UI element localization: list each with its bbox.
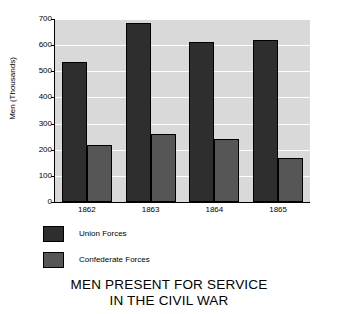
legend-label: Confederate Forces <box>79 255 150 265</box>
bar-union-forces-1862 <box>62 62 87 202</box>
x-axis-tick-label-1865: 1865 <box>248 205 308 215</box>
chart-title: MEN PRESENT FOR SERVICE IN THE CIVIL WAR <box>0 277 338 309</box>
legend-label: Union Forces <box>79 229 127 239</box>
bar-group <box>126 19 176 202</box>
bar-confederate-forces-1865 <box>278 158 303 202</box>
y-axis-tick-label: 100 <box>4 172 52 180</box>
x-axis-ticks: 1862186318641865 <box>55 205 310 219</box>
bar-group <box>189 19 239 202</box>
chart-figure: 7006005004003002001000 Men (Thousands) 1… <box>0 0 338 314</box>
plot-area <box>55 19 310 202</box>
chart-legend: Union ForcesConfederate Forces <box>43 221 283 273</box>
x-axis-tick-label-1863: 1863 <box>121 205 181 215</box>
chart-title-line-2: IN THE CIVIL WAR <box>0 293 338 309</box>
bar-confederate-forces-1862 <box>87 145 112 202</box>
bar-union-forces-1864 <box>189 42 214 202</box>
y-axis-tick-label: 0 <box>4 198 52 206</box>
bar-union-forces-1865 <box>253 40 278 202</box>
bar-union-forces-1863 <box>126 23 151 202</box>
legend-item-confederate-forces: Confederate Forces <box>43 247 283 273</box>
x-axis-tick-label-1862: 1862 <box>57 205 117 215</box>
y-axis-tick-label: 700 <box>4 15 52 23</box>
legend-swatch-confederate <box>43 252 64 268</box>
legend-item-union-forces: Union Forces <box>43 221 283 247</box>
bar-group <box>62 19 112 202</box>
y-axis-line <box>54 19 55 203</box>
bars-layer <box>55 19 310 202</box>
bar-group <box>253 19 303 202</box>
chart-title-line-1: MEN PRESENT FOR SERVICE <box>71 277 268 292</box>
x-axis-tick-label-1864: 1864 <box>184 205 244 215</box>
bar-confederate-forces-1864 <box>214 139 239 202</box>
y-axis-title: Men (Thousands) <box>8 29 17 149</box>
bar-confederate-forces-1863 <box>151 134 176 202</box>
x-axis-line <box>54 202 310 203</box>
legend-swatch-union <box>43 226 64 242</box>
